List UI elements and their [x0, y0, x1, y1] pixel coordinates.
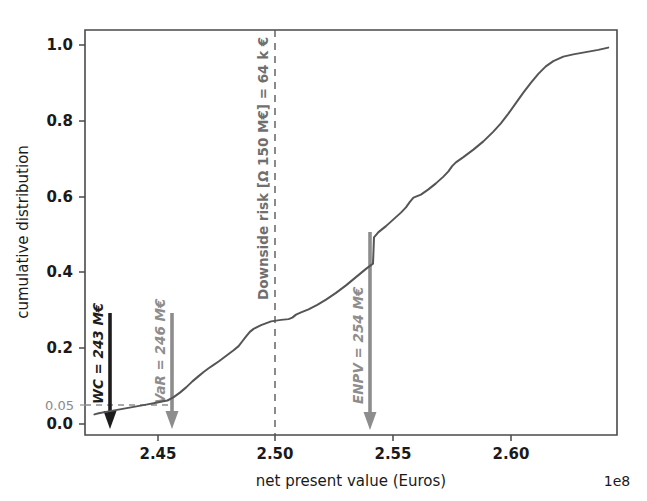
y-tick-label-0.05: 0.05: [45, 398, 74, 413]
x-axis-exponent-label: 1e8: [604, 473, 630, 489]
x-tick-label-2.50: 2.50: [256, 445, 293, 463]
x-tick-label-2.55: 2.55: [374, 445, 411, 463]
y-axis-ticks: [79, 45, 85, 424]
y-tick-label-0.0: 0.0: [46, 415, 73, 433]
y-axis-title: cumulative distribution: [14, 145, 32, 319]
downside-risk-label: Downside risk [Ω 150 M€] = 64 k €: [255, 37, 271, 300]
cumulative-distribution-chart: 1.0 0.8 0.6 0.4 0.2 0.0 0.05 2.45 2.50 2…: [0, 0, 647, 501]
y-tick-label-0.6: 0.6: [46, 188, 73, 206]
y-tick-label-0.2: 0.2: [46, 339, 73, 357]
var-annotation-label: VaR = 246 M€: [152, 298, 168, 404]
x-tick-label-2.45: 2.45: [139, 445, 176, 463]
x-axis-ticks: [158, 435, 511, 441]
enpv-annotation-label: ENPV = 254 M€: [350, 286, 366, 404]
x-axis-title: net present value (Euros): [256, 472, 446, 490]
y-tick-label-1.0: 1.0: [46, 36, 73, 54]
x-tick-label-2.60: 2.60: [492, 445, 529, 463]
y-tick-label-0.8: 0.8: [46, 112, 73, 130]
wc-annotation-label: WC = 243 M€: [90, 302, 106, 404]
chart-figure: 1.0 0.8 0.6 0.4 0.2 0.0 0.05 2.45 2.50 2…: [0, 0, 647, 501]
y-tick-label-0.4: 0.4: [46, 263, 73, 281]
